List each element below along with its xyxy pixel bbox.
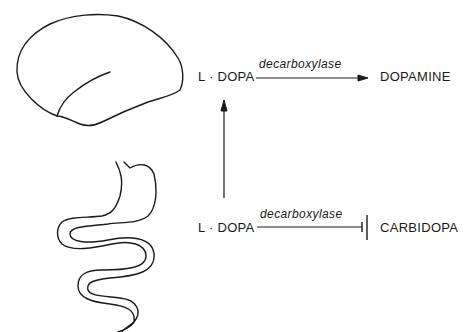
top-product-label: DOPAMINE [380, 70, 451, 83]
conversion-arrow [256, 75, 368, 81]
upward-arrow [221, 100, 227, 198]
bottom-inhibitor-label: CARBIDOPA [380, 221, 458, 234]
brain-icon [17, 15, 183, 126]
stomach-intestine-icon [58, 162, 157, 332]
top-substrate-label: L · DOPA [198, 70, 255, 83]
bottom-enzyme-label: decarboxylase [260, 208, 343, 220]
diagram-canvas [0, 0, 464, 332]
bottom-substrate-label: L · DOPA [198, 221, 255, 234]
top-enzyme-label: decarboxylase [259, 58, 342, 70]
